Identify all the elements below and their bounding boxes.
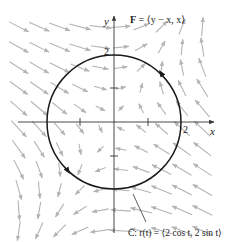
field-arrow: [95, 167, 106, 171]
field-arrow: [92, 209, 109, 212]
field-arrow: [75, 185, 84, 194]
field-arrow: [135, 44, 147, 51]
field-arrow: [9, 22, 29, 32]
field-arrow: [151, 186, 171, 194]
field-arrow: [31, 101, 48, 115]
field-arrow: [96, 106, 105, 111]
field-arrow: [10, 62, 29, 74]
field-arrow: [32, 121, 46, 136]
field-arrow: [131, 187, 151, 193]
curve-label-leader: [133, 194, 146, 222]
field-arrow: [161, 61, 163, 74]
field-arrow: [9, 42, 28, 53]
field-arrow: [137, 63, 145, 71]
field-arrow: [79, 144, 81, 155]
field-arrow: [136, 125, 146, 133]
field-arrow: [70, 44, 91, 51]
x-axis-label: x: [209, 125, 215, 137]
field-arrow: [38, 182, 40, 199]
field-arrow: [99, 125, 103, 132]
orientation-arrow-lower: [66, 168, 68, 171]
field-arrow: [92, 66, 108, 69]
field-arrow: [54, 123, 65, 136]
field-arrow: [36, 161, 42, 178]
field-arrow: [35, 223, 42, 239]
field-arrow: [38, 202, 41, 219]
field-arrow: [118, 106, 123, 111]
vector-field-diagram: y x 2 2 F = ⟨y − x, x⟩ C: r(t) = ⟨2 cos …: [0, 0, 240, 242]
y-axis-label: y: [103, 15, 109, 27]
field-arrow: [154, 144, 170, 154]
field-arrow: [50, 63, 70, 73]
field-arrow: [58, 183, 61, 197]
field-arrow: [56, 204, 64, 217]
field-arrow: [194, 121, 210, 136]
field-arrow: [74, 104, 86, 112]
field-arrow: [115, 148, 126, 150]
field-arrow: [59, 163, 61, 177]
field-arrow: [18, 200, 19, 220]
field-arrow: [29, 42, 49, 52]
field-arrow: [199, 58, 206, 77]
field-arrow: [133, 167, 150, 173]
field-arrow: [193, 185, 212, 196]
field-arrow: [181, 39, 183, 55]
field-arrow: [113, 46, 129, 48]
field-arrow: [193, 205, 213, 215]
field-arrow: [173, 164, 192, 175]
field-arrow: [11, 101, 28, 115]
field-arrow: [202, 17, 203, 36]
field-arrow: [53, 225, 65, 237]
field-arrow: [94, 86, 107, 90]
field-arrow: [69, 24, 90, 30]
field-arrow: [158, 41, 165, 53]
field-arrow: [90, 229, 110, 232]
field-arrow: [160, 82, 164, 95]
field-arrow: [12, 140, 25, 158]
field-arrow: [73, 206, 86, 214]
field-arrow: [56, 143, 63, 156]
field-arrow: [72, 227, 88, 234]
field-arrow: [97, 146, 103, 152]
field-arrow: [194, 143, 211, 156]
field-arrow: [140, 83, 142, 93]
field-arrow: [197, 79, 208, 97]
field-arrow: [10, 81, 28, 94]
field-arrow: [16, 180, 22, 200]
field-arrow: [30, 62, 49, 73]
field-arrow: [49, 23, 70, 31]
field-arrow: [172, 206, 192, 215]
field-arrow: [157, 102, 165, 114]
field-arrow: [34, 141, 44, 157]
field-arrow: [14, 160, 24, 179]
field-arrow: [201, 38, 204, 57]
field-arrow: [139, 104, 144, 113]
field-arrow: [72, 84, 87, 92]
field-arrow: [114, 169, 128, 171]
field-label-rest: = ⟨y − x, x⟩: [136, 14, 185, 25]
field-arrow: [178, 80, 186, 95]
curve-label: C: r(t) = ⟨2 cos t, 2 sin t⟩: [128, 228, 222, 239]
field-arrow: [195, 100, 209, 117]
field-arrow: [49, 43, 69, 52]
field-arrow: [30, 82, 48, 94]
field-arrow: [172, 185, 192, 195]
field-arrow: [135, 146, 148, 153]
field-arrows: [9, 17, 212, 240]
field-arrow: [114, 67, 127, 69]
field-arrow: [29, 22, 49, 31]
field-arrow: [52, 103, 67, 115]
field-arrow: [17, 221, 20, 241]
y-tick-label: 2: [104, 46, 109, 57]
field-label: F = ⟨y − x, x⟩: [130, 14, 185, 25]
x-tick-label: 2: [183, 124, 188, 135]
field-arrow: [180, 60, 183, 76]
field-arrow: [117, 127, 124, 131]
field-arrow: [78, 164, 82, 175]
field-arrow: [155, 123, 168, 134]
field-arrow: [151, 207, 172, 214]
field-arrow: [193, 164, 211, 176]
field-arrow: [11, 121, 26, 137]
